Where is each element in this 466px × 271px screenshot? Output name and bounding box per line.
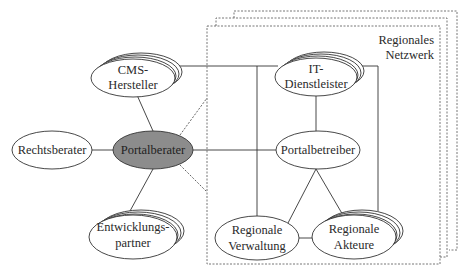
node-verw-label-1: Regionale — [232, 223, 283, 237]
node-cms-label-2: Hersteller — [108, 78, 158, 92]
node-entw-label-2: partner — [115, 236, 151, 250]
node-akteure-label-1: Regionale — [329, 222, 380, 236]
node-portalberater-label: Portalberater — [121, 143, 186, 157]
node-cms-label-1: CMS- — [118, 63, 149, 77]
network-label-line2: Netzwerk — [385, 48, 434, 62]
dotted-edge-top — [180, 98, 207, 135]
node-rechts-label: Rechtsberater — [18, 143, 88, 157]
node-akteure-label-2: Akteure — [334, 238, 375, 252]
node-entwicklungspartner[interactable] — [89, 210, 184, 259]
node-portalbetreiber-label: Portalbetreiber — [281, 143, 356, 157]
node-verw-label-2: Verwaltung — [228, 239, 286, 253]
network-label-line1: Regionales — [378, 33, 434, 47]
node-entw-label-1: Entwicklungs- — [97, 220, 170, 234]
edge-portalbetreiber-verw — [288, 169, 316, 223]
edge-portalberater-entw — [130, 169, 153, 211]
dotted-edge-bottom — [180, 165, 207, 192]
node-it-label-1: IT- — [309, 62, 324, 76]
node-it-label-2: Dienstleister — [284, 77, 348, 91]
diagram-canvas: Regionales Netzwerk CMS- Hersteller IT- — [0, 0, 466, 271]
